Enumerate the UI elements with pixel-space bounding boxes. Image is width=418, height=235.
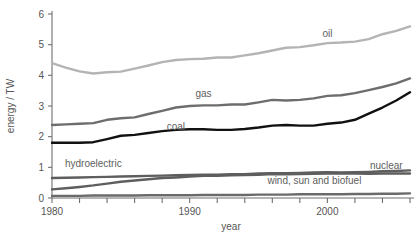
y-tick-label: 4 [38,70,44,81]
y-tick-label: 3 [38,101,44,112]
series-label-oil: oil [322,28,332,39]
y-tick-label: 2 [38,131,44,142]
y-tick-label: 5 [38,39,44,50]
x-tick-label: 1990 [179,206,202,217]
series-line-oil [52,26,410,73]
series-line-coal [52,92,410,143]
series-label-gas: gas [195,88,211,99]
series-line-wind [52,193,410,195]
x-tick-label: 2000 [316,206,339,217]
energy-line-chart: oilgascoalhydroelectricnuclearwind, sun … [0,0,418,235]
x-tick-label: 1980 [41,206,64,217]
series-label-hydroelectric: hydroelectric [65,158,122,169]
y-tick-label: 1 [38,162,44,173]
chart-figure: oilgascoalhydroelectricnuclearwind, sun … [0,0,418,235]
series-label-wind: wind, sun and biofuel [266,175,361,186]
x-axis-title: year [221,221,241,232]
series-labels-layer: oilgascoalhydroelectricnuclearwind, sun … [65,28,403,186]
curves-layer [52,26,410,196]
y-tick-label: 6 [38,9,44,20]
y-tick-label: 0 [38,193,44,204]
y-axis-title: energy / TW [5,78,16,133]
series-label-nuclear: nuclear [370,160,403,171]
series-label-coal: coal [167,121,185,132]
